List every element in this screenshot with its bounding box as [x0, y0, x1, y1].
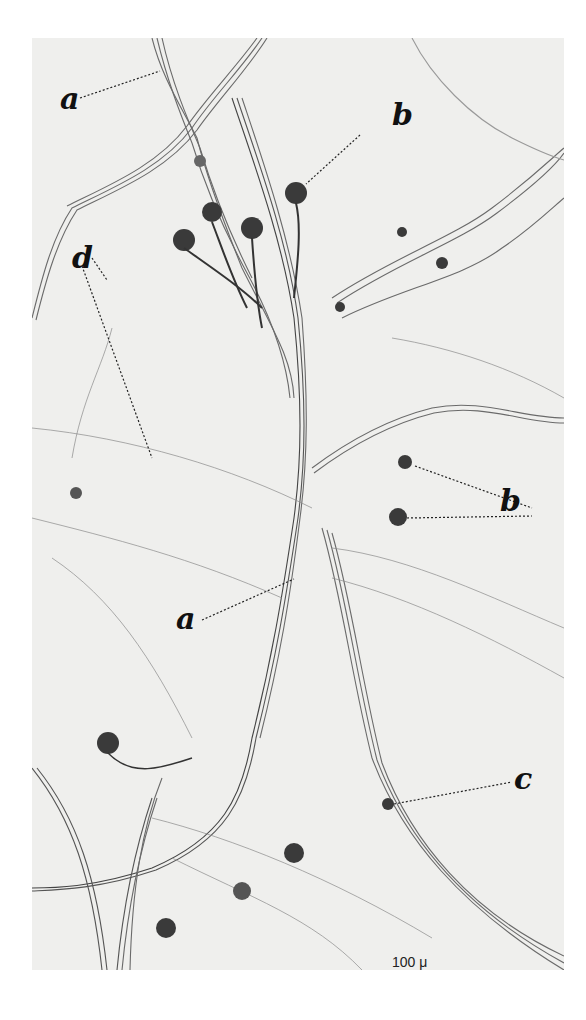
axons — [108, 203, 299, 769]
scale-bar-label: 100 μ — [392, 954, 427, 970]
label-d: d — [72, 243, 93, 273]
micrograph-image — [32, 38, 564, 970]
thin-fibers — [32, 328, 564, 970]
fiber-bundles — [32, 38, 564, 970]
label-b-top: b — [392, 100, 413, 130]
label-b-right: b — [500, 486, 521, 516]
label-a-top: a — [60, 84, 79, 114]
label-c: c — [514, 764, 532, 794]
micrograph-plate: a b d b a c 100 μ — [32, 38, 564, 970]
label-a-middle: a — [176, 604, 195, 634]
neuron-cells — [70, 155, 448, 938]
